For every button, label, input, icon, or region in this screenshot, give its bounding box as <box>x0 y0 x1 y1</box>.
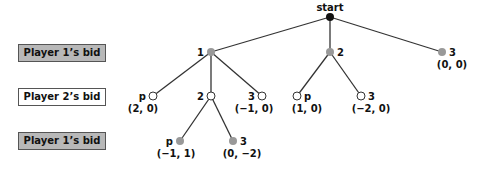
node-p1-pass-label: p <box>166 136 173 147</box>
node-p1-bid-3-label: 3 <box>449 47 456 58</box>
root-label: start <box>316 2 343 13</box>
payoff: (0, 0) <box>437 59 467 70</box>
node-p2-bid-3-b-label: 3 <box>368 91 375 102</box>
node-p2-pass-b-label: p <box>304 91 311 102</box>
node-p2-bid-3-b <box>357 92 365 100</box>
node-p1-pass <box>176 137 184 145</box>
game-tree: start 1 2 3 (0, 0) p (2, 0) 2 3 (−1, 0) … <box>0 0 484 172</box>
payoff: (0, −2) <box>223 148 262 159</box>
node-p1-bid-3 <box>438 48 446 56</box>
node-p1-bid-1-label: 1 <box>197 47 204 58</box>
node-p2-bid-3-label: 3 <box>248 91 255 102</box>
node-p2-pass <box>149 92 157 100</box>
node-p2-bid-2-label: 2 <box>197 91 204 102</box>
node-p2-bid-3 <box>258 92 266 100</box>
payoff: (−2, 0) <box>352 103 391 114</box>
payoff: (−1, 0) <box>235 103 274 114</box>
payoff: (2, 0) <box>128 103 158 114</box>
payoff: (−1, 1) <box>157 148 196 159</box>
root-node <box>326 13 334 21</box>
node-p1-bid-3-final-label: 3 <box>240 136 247 147</box>
node-p1-bid-2-label: 2 <box>337 47 344 58</box>
node-p1-bid-1 <box>207 48 215 56</box>
node-p2-pass-label: p <box>139 91 146 102</box>
node-p1-bid-2 <box>326 48 334 56</box>
node-p2-bid-2 <box>207 92 215 100</box>
tree-edges <box>153 17 442 141</box>
node-p2-pass-b <box>293 92 301 100</box>
node-p1-bid-3-final <box>229 137 237 145</box>
payoff: (1, 0) <box>292 103 322 114</box>
